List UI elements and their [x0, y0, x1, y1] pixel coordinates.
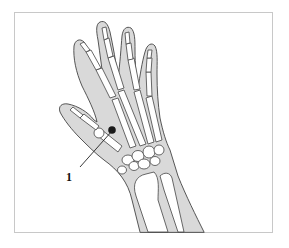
carpal-bone [154, 145, 164, 155]
acupoint-marker [108, 126, 116, 134]
ring-distal-phalanx [125, 32, 130, 44]
hand-skeleton-illustration [0, 0, 289, 248]
carpal-bone [143, 146, 155, 158]
little-middle-phalanx [146, 58, 152, 72]
little-distal-phalanx [147, 50, 152, 58]
little-proximal-phalanx [146, 72, 152, 96]
carpal-bone [129, 162, 139, 171]
carpal-bone [118, 166, 127, 174]
carpal-bone [138, 159, 150, 169]
marker-label-1: 1 [66, 171, 72, 183]
carpal-bone [150, 157, 160, 166]
